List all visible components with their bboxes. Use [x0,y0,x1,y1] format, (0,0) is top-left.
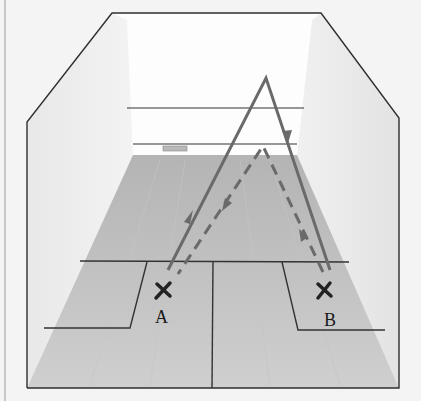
tin-plate [163,146,187,151]
squash-court-diagram [0,0,421,401]
center-line [212,262,213,388]
player-a-label: A [155,307,168,328]
player-b-label: B [324,310,336,331]
